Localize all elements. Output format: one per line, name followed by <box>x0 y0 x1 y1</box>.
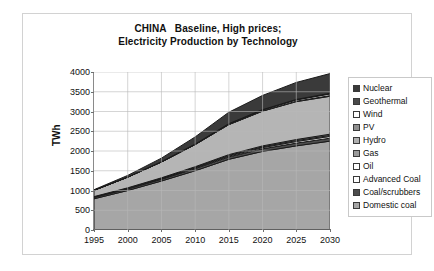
stacked-area-plot <box>94 72 330 230</box>
legend-swatch-icon <box>353 111 360 118</box>
y-axis-tick-mark <box>91 151 94 152</box>
legend-swatch-icon <box>353 202 360 209</box>
legend-item[interactable]: Domestic coal <box>353 199 428 212</box>
y-axis-tick-mark <box>91 131 94 132</box>
x-axis-tick-mark <box>94 229 95 232</box>
chart-title-line-2: Electricity Production by Technology <box>83 35 333 48</box>
x-axis-tick-label: 2000 <box>118 235 138 245</box>
x-axis-tick-label: 2025 <box>286 235 306 245</box>
legend-item-label: Domestic coal <box>363 201 416 210</box>
x-axis-tick-label: 2005 <box>151 235 171 245</box>
legend-item[interactable]: Nuclear <box>353 82 428 95</box>
legend-item[interactable]: Geothermal <box>353 95 428 108</box>
x-axis-tick-label: 2015 <box>219 235 239 245</box>
x-axis-tick-label: 2030 <box>320 235 340 245</box>
y-axis-tick-mark <box>91 171 94 172</box>
x-axis-tick-mark <box>161 229 162 232</box>
x-axis-tick-mark <box>296 229 297 232</box>
y-axis-tick-label: 3500 <box>56 87 90 97</box>
legend-item-label: Geothermal <box>363 97 407 106</box>
y-axis-tick-mark <box>91 92 94 93</box>
legend-swatch-icon <box>353 98 360 105</box>
legend-item[interactable]: Oil <box>353 160 428 173</box>
legend-item-label: Advanced Coal <box>363 175 421 184</box>
legend-item-label: Coal/scrubbers <box>363 188 420 197</box>
y-axis-tick-mark <box>91 112 94 113</box>
x-axis-tick-label: 2010 <box>185 235 205 245</box>
x-axis-tick-mark <box>263 229 264 232</box>
legend-item[interactable]: Advanced Coal <box>353 173 428 186</box>
legend-item-label: Oil <box>363 162 373 171</box>
x-axis-tick-mark <box>195 229 196 232</box>
legend-swatch-icon <box>353 163 360 170</box>
y-axis-tick-mark <box>91 72 94 73</box>
legend-item-label: Gas <box>363 149 379 158</box>
y-axis-tick-label: 1500 <box>56 166 90 176</box>
legend-swatch-icon <box>353 137 360 144</box>
y-axis-tick-label: 4000 <box>56 67 90 77</box>
legend-swatch-icon <box>353 150 360 157</box>
y-axis-tick-label: 500 <box>56 205 90 215</box>
legend-item-label: Nuclear <box>363 84 392 93</box>
y-axis-tick-label: 2000 <box>56 146 90 156</box>
legend-swatch-icon <box>353 85 360 92</box>
x-axis-tick-mark <box>128 229 129 232</box>
y-axis-tick-label: 1000 <box>56 186 90 196</box>
x-axis-tick-label: 2020 <box>253 235 273 245</box>
legend-item[interactable]: PV <box>353 121 428 134</box>
x-axis-tick-mark <box>330 229 331 232</box>
legend-item[interactable]: Hydro <box>353 134 428 147</box>
plot-area: 0500100015002000250030003500400019952000… <box>93 72 329 230</box>
legend-swatch-icon <box>353 176 360 183</box>
legend-item-label: Wind <box>363 110 382 119</box>
legend-item[interactable]: Gas <box>353 147 428 160</box>
chart-frame: CHINA Baseline, High prices; Electricity… <box>22 13 412 255</box>
legend-item[interactable]: Wind <box>353 108 428 121</box>
y-axis-tick-mark <box>91 191 94 192</box>
legend-item-label: PV <box>363 123 374 132</box>
legend-swatch-icon <box>353 189 360 196</box>
legend-swatch-icon <box>353 124 360 131</box>
chart-legend: NuclearGeothermalWindPVHydroGasOilAdvanc… <box>348 77 432 217</box>
x-axis-tick-label: 1995 <box>84 235 104 245</box>
chart-title: CHINA Baseline, High prices; Electricity… <box>83 22 333 48</box>
legend-item[interactable]: Coal/scrubbers <box>353 186 428 199</box>
legend-item-label: Hydro <box>363 136 386 145</box>
y-axis-tick-mark <box>91 210 94 211</box>
y-axis-tick-label: 2500 <box>56 126 90 136</box>
x-axis-tick-mark <box>229 229 230 232</box>
y-axis-tick-label: 0 <box>56 225 90 235</box>
y-axis-tick-label: 3000 <box>56 107 90 117</box>
chart-title-line-1: CHINA Baseline, High prices; <box>83 22 333 35</box>
